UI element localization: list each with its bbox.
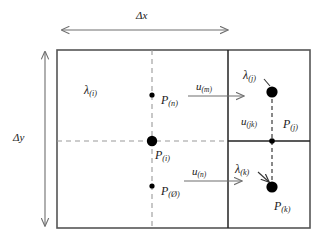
label-p-i: P(i)	[155, 149, 170, 163]
node-point-n	[149, 92, 154, 97]
p-oslash-sub: (Ø)	[168, 190, 179, 199]
dimension-label-dy: Δy	[13, 132, 24, 143]
label-lambda-k: λ(k)	[235, 163, 249, 177]
label-lambda-j: λ(j)	[243, 69, 256, 83]
node-point-oslash	[149, 183, 154, 188]
p-i-sub: (i)	[162, 154, 170, 163]
leader-lambda-j	[264, 79, 270, 86]
u-m-sub: (m)	[202, 85, 212, 94]
node-point-i	[147, 136, 157, 146]
label-p-j: P(j)	[283, 118, 298, 132]
label-u-jk: u(jk)	[241, 116, 257, 129]
dx-text: Δx	[136, 9, 147, 21]
label-p-n: P(n)	[161, 94, 178, 108]
dimension-label-dx: Δx	[136, 10, 147, 21]
label-u-m: u(m)	[196, 81, 212, 94]
u-n-sub: (n)	[198, 170, 207, 179]
node-point-k	[266, 181, 277, 192]
u-jk-sub: (jk)	[247, 120, 257, 129]
lambda-i-sub: (i)	[89, 89, 97, 98]
label-p-oslash: P(Ø)	[161, 185, 180, 199]
dy-text: Δy	[13, 131, 24, 143]
lambda-k-sub: (k)	[240, 168, 249, 177]
label-lambda-i: λ(i)	[84, 84, 97, 98]
node-point-interface	[269, 138, 275, 144]
node-point-j	[266, 86, 277, 97]
label-p-k: P(k)	[274, 200, 290, 214]
p-j-sub: (j)	[290, 123, 298, 132]
diagram-canvas: Δx Δy λ(i) λ(j) λ(k) P(n) P(i) P(Ø) P(j)…	[0, 0, 331, 245]
lambda-j-sub: (j)	[248, 74, 256, 83]
leader-lambda-k	[258, 172, 269, 182]
p-n-sub: (n)	[168, 99, 178, 108]
p-k-sub: (k)	[281, 205, 290, 214]
label-u-n: u(n)	[192, 166, 206, 179]
